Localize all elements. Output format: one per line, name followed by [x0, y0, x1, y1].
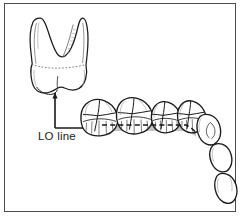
arch-tooth-first-molar: [81, 100, 118, 136]
isolated-molar-tooth: [30, 18, 88, 94]
figure-drawing-canvas: [0, 0, 242, 218]
arch-tooth-lateral-incisor: [210, 144, 232, 172]
arch-tooth-second-premolar: [151, 102, 180, 133]
arch-tooth-second-molar: [116, 98, 152, 134]
arch-tooth-second-molar-outline: [116, 98, 152, 134]
tooth-outline: [30, 18, 88, 93]
arch-tooth-second-premolar-outline: [151, 102, 180, 133]
arch-tooth-central-incisor-outline: [215, 174, 237, 204]
arch-tooth-lateral-incisor-outline: [210, 144, 232, 172]
arch-tooth-canine: [197, 114, 221, 145]
lo-line-label: LO line: [38, 130, 76, 142]
figure-root: LO line: [0, 0, 242, 218]
dental-arch: [81, 98, 237, 203]
arch-tooth-central-incisor: [215, 174, 237, 204]
